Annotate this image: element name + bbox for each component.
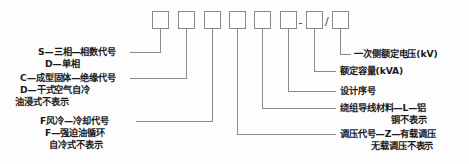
label-insulation-code-line1: C—成型固体—绝缘代号 [20,72,116,85]
leader-v-box8 [340,29,341,54]
label-winding-material-line2: 铜不表示 [391,114,427,127]
label-winding-material-line1: 绕组导线材料—L—铝 [340,102,426,115]
label-primary-voltage: 一次侧额定电压(kV) [354,48,438,61]
code-box-6[interactable] [280,11,297,29]
leader-v-box3 [212,29,213,121]
leader-h-box7 [314,71,336,72]
label-cooling-code-line3: 自冷式不表示 [49,139,102,152]
leader-h-box3 [136,121,213,122]
leader-h-box2 [130,78,187,79]
leader-h-box4 [237,134,336,135]
leader-v-box6 [288,29,289,91]
label-insulation-code-line3: 油浸式不表示 [15,96,68,109]
code-box-4[interactable] [229,11,246,29]
label-tap-changer-line2: 无载调压不表示 [371,140,433,153]
label-insulation-code-line2: D—干式空气自冷 [20,84,90,97]
label-cooling-code-line2: F—强迫油循环 [45,127,105,140]
label-phase-code-line1: S—三相—相数代号 [38,46,116,59]
leader-v-box1 [160,29,161,52]
slash-separator: / [325,16,329,27]
code-box-1[interactable] [152,11,169,29]
label-design-serial: 设计序号 [340,85,376,98]
leader-h-box6 [288,91,336,92]
label-cooling-code-line1: F风冷—冷却代号 [40,115,109,128]
label-phase-code-line2: D—单相 [45,58,79,71]
label-tap-changer-line1: 调压代号—Z—有载调压 [340,128,436,141]
leader-v-box4 [237,29,238,134]
leader-v-box2 [186,29,187,78]
code-box-5[interactable] [254,11,271,29]
label-rated-capacity: 额定容量(kVA) [340,65,403,78]
code-box-8[interactable] [332,11,349,29]
dash-separator: - [299,17,303,28]
code-box-3[interactable] [204,11,221,29]
leader-h-box5 [262,108,336,109]
code-box-7[interactable] [306,11,323,29]
code-box-2[interactable] [178,11,195,29]
leader-v-box7 [314,29,315,71]
leader-h-box1 [130,52,161,53]
transformer-designation-diagram: - / S—三相—相数代号 D—单相 C—成型固体—绝缘代号 D—干式空气自冷 … [0,0,469,164]
leader-v-box5 [262,29,263,108]
leader-h-box8 [340,54,351,55]
